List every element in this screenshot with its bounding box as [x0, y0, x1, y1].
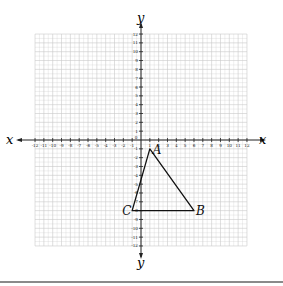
- x-tick-label: 4: [175, 143, 178, 148]
- x-tick-label: -12: [32, 143, 39, 148]
- x-tick-label: 11: [235, 143, 241, 148]
- triangle-abc: ABC: [122, 143, 205, 218]
- y-tick-label: 2: [135, 120, 138, 125]
- y-tick-label: 9: [135, 58, 138, 63]
- x-tick-label: -4: [104, 143, 108, 148]
- y-tick-label: -1: [134, 146, 138, 151]
- x-axis-label-left: x: [6, 132, 14, 147]
- y-tick-label: -12: [131, 243, 138, 248]
- x-tick-label: 12: [244, 143, 250, 148]
- x-tick-label: 1: [148, 143, 151, 148]
- y-tick-label: -9: [134, 217, 138, 222]
- x-tick-label: -10: [49, 143, 56, 148]
- y-tick-label: 11: [133, 40, 139, 45]
- x-tick-label: -7: [77, 143, 81, 148]
- page-divider: [0, 281, 283, 283]
- x-tick-label: -8: [68, 143, 72, 148]
- x-axis-arrow-left-icon: [16, 138, 22, 142]
- y-axis-label-top: y: [136, 10, 145, 25]
- x-tick-label: 3: [166, 143, 169, 148]
- y-tick-label: 6: [135, 85, 138, 90]
- y-tick-label: -2: [134, 155, 138, 160]
- x-tick-label: -2: [121, 143, 125, 148]
- axes: [16, 22, 266, 259]
- y-tick-label: 7: [135, 76, 138, 81]
- coordinate-plane: -12-11-10-9-8-7-6-5-4-3-2-11234567891011…: [0, 0, 283, 286]
- x-tick-label: -11: [40, 143, 47, 148]
- x-tick-label: -5: [95, 143, 99, 148]
- x-tick-label: -6: [86, 143, 90, 148]
- x-tick-label: -9: [59, 143, 63, 148]
- x-tick-label: 7: [201, 143, 204, 148]
- y-tick-label: 5: [135, 93, 138, 98]
- y-tick-label: 3: [135, 111, 138, 116]
- y-axis-label-bottom: y: [136, 255, 145, 270]
- origin-label: 0: [135, 135, 138, 140]
- y-tick-label: 10: [133, 49, 139, 54]
- vertex-label-a: A: [152, 143, 162, 157]
- y-tick-label: 12: [133, 32, 139, 37]
- vertex-label-c: C: [122, 204, 131, 218]
- y-tick-label: 4: [135, 102, 138, 107]
- y-tick-label: -11: [131, 235, 138, 240]
- y-tick-label: -4: [134, 173, 138, 178]
- y-tick-label: -10: [131, 226, 138, 231]
- x-tick-label: 5: [184, 143, 187, 148]
- vertex-label-b: B: [195, 204, 205, 218]
- y-tick-label: -3: [134, 164, 138, 169]
- y-tick-label: 8: [135, 67, 138, 72]
- x-axis-label-right: x: [259, 132, 267, 147]
- y-tick-label: -5: [134, 182, 138, 187]
- y-tick-label: 1: [135, 129, 138, 134]
- x-tick-label: 6: [193, 143, 196, 148]
- x-tick-label: -3: [112, 143, 116, 148]
- x-tick-label: 8: [210, 143, 213, 148]
- x-tick-label: 10: [227, 143, 233, 148]
- x-tick-label: 9: [219, 143, 222, 148]
